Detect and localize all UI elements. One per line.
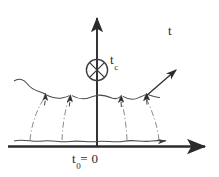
- initial-time-subscript: 0: [76, 161, 81, 171]
- dashdot-3: [122, 102, 127, 140]
- wave-seg-4: [148, 95, 160, 98]
- dashdot-connectors: [30, 100, 159, 140]
- up-arrow-2-tail: [69, 102, 70, 107]
- time-axis-label: t: [168, 24, 172, 37]
- spacetime-diagram-figure: t tc t0= 0: [0, 0, 219, 177]
- dashdot-1: [30, 100, 43, 140]
- escaping-arrow: [146, 70, 176, 96]
- wave-seg-3: [123, 95, 146, 99]
- critical-time-subscript: c: [114, 62, 118, 72]
- bottom-wavy-line: [14, 140, 166, 142]
- up-arrow-3-head: [118, 95, 123, 102]
- wavy-worldline: [14, 79, 160, 99]
- left-wave-curl: [14, 79, 46, 94]
- initial-time-label: t0= 0: [72, 152, 98, 169]
- bottom-wavy-path: [14, 140, 166, 142]
- dashdot-2: [62, 101, 68, 140]
- dashdot-4: [147, 100, 159, 140]
- initial-time-equals: = 0: [80, 151, 98, 166]
- up-arrow-1-tail: [44, 101, 45, 106]
- diagram-canvas: [0, 0, 219, 177]
- critical-time-label: tc: [110, 53, 118, 70]
- up-arrow-1-head: [43, 93, 48, 100]
- escaping-arrow-line: [146, 70, 176, 96]
- wave-seg-1: [47, 95, 70, 98]
